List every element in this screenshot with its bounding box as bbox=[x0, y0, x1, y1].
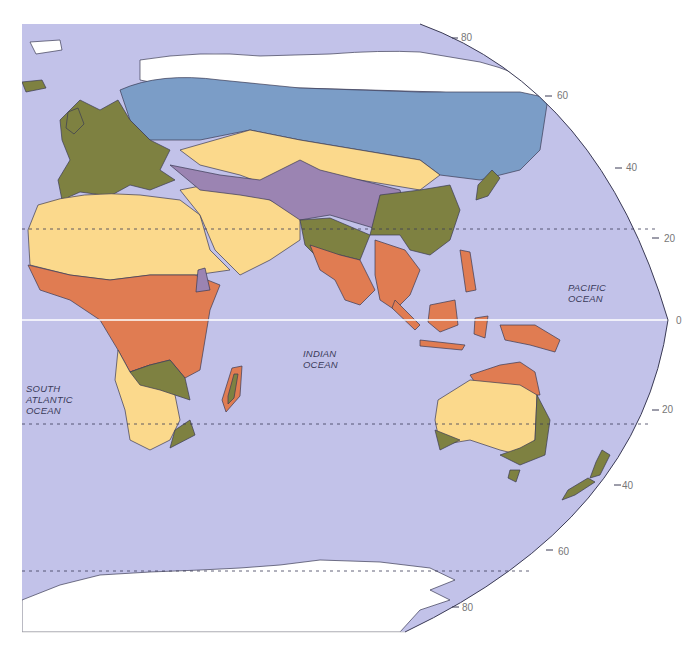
lat-label-s20: 20 bbox=[662, 404, 674, 415]
lat-label-n40: 40 bbox=[626, 162, 638, 173]
lat-label-s60: 60 bbox=[558, 546, 570, 557]
lat-label-s40: 40 bbox=[622, 480, 634, 491]
lat-label-n80: 80 bbox=[461, 32, 473, 43]
label-indian-ocean: INDIANOCEAN bbox=[303, 348, 338, 370]
world-climate-map: 80 60 40 20 0 20 40 60 80 PACIFICOCEAN I… bbox=[0, 0, 700, 652]
lat-label-eq: 0 bbox=[676, 315, 682, 326]
lat-label-n20: 20 bbox=[664, 233, 676, 244]
lat-label-s80: 80 bbox=[462, 602, 474, 613]
label-pacific-ocean: PACIFICOCEAN bbox=[568, 282, 606, 304]
lat-label-n60: 60 bbox=[557, 90, 569, 101]
